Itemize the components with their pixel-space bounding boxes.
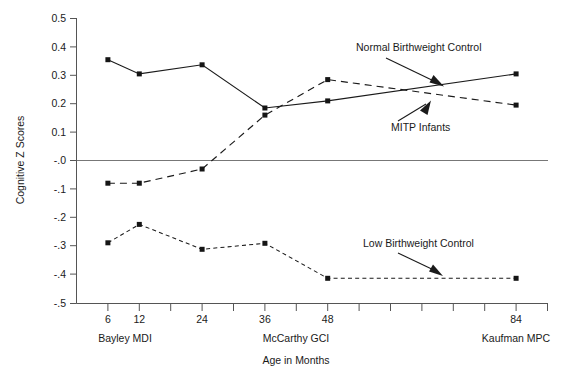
- data-point-marker: [262, 241, 267, 246]
- series-normal-birthweight-control: [105, 57, 518, 110]
- annotation-label-normal-birthweight-control: Normal Birthweight Control: [356, 41, 481, 53]
- data-point-marker: [200, 62, 205, 67]
- x-tick-label: 6: [105, 313, 111, 325]
- annotation-normal-birthweight-control: Normal Birthweight Control: [356, 41, 481, 87]
- series-line-normal-birthweight-control: [108, 60, 516, 108]
- y-tick-label: 0.5: [51, 12, 66, 24]
- annotation-label-low-birthweight-control: Low Birthweight Control: [363, 237, 474, 249]
- data-point-marker: [105, 57, 110, 62]
- group-label-mccarthy: McCarthy GCI: [263, 332, 330, 344]
- y-tick-label: 0.1: [51, 126, 66, 138]
- x-tick-label: 84: [510, 313, 522, 325]
- x-tick-label: 48: [322, 313, 334, 325]
- x-tick-label: 36: [259, 313, 271, 325]
- y-tick-label: 0.4: [51, 41, 66, 53]
- y-tick-label: -.2: [54, 211, 66, 223]
- data-point-marker: [105, 181, 110, 186]
- series-line-low-birthweight-control: [108, 224, 516, 278]
- cognitive-z-scores-line-chart: Cognitive Z Scores 0.5 0.4 0.3 0.2 0.1 -…: [0, 0, 579, 370]
- y-axis-title-text: Cognitive Z Scores: [14, 116, 26, 205]
- x-tick-label: 24: [196, 313, 208, 325]
- y-tick-label: -.0: [54, 154, 66, 166]
- y-tick-label: -.5: [54, 297, 66, 309]
- annotation-arrowhead: [429, 265, 443, 277]
- group-label-kaufman: Kaufman MPC: [482, 332, 551, 344]
- annotation-arrowhead: [420, 101, 431, 116]
- x-axis-tick-labels: 6 12 24 36 48 84: [105, 313, 522, 325]
- data-point-marker: [137, 222, 142, 227]
- x-tick-label: 12: [133, 313, 145, 325]
- data-point-marker: [200, 167, 205, 172]
- y-tick-label: 0.2: [51, 97, 66, 109]
- annotation-leader-line: [398, 104, 426, 121]
- series-mitp-infants: [105, 77, 518, 186]
- y-axis-title: Cognitive Z Scores: [14, 116, 26, 205]
- series-low-birthweight-control: [105, 222, 518, 281]
- data-point-marker: [325, 98, 330, 103]
- annotation-low-birthweight-control: Low Birthweight Control: [363, 237, 474, 276]
- x-axis-ticks: [108, 304, 548, 312]
- data-point-marker: [262, 106, 267, 111]
- y-tick-label: -.3: [54, 239, 66, 251]
- data-point-marker: [325, 276, 330, 281]
- annotation-leader-line: [386, 58, 438, 83]
- data-point-marker: [105, 240, 110, 245]
- data-point-marker: [137, 71, 142, 76]
- data-point-marker: [137, 181, 142, 186]
- data-point-marker: [325, 77, 330, 82]
- data-point-marker: [262, 113, 267, 118]
- data-point-marker: [200, 247, 205, 252]
- group-label-bayley: Bayley MDI: [98, 332, 152, 344]
- data-point-marker: [514, 71, 519, 76]
- assessment-group-labels: Bayley MDI McCarthy GCI Kaufman MPC: [98, 332, 550, 344]
- annotation-mitp-infants: MITP Infants: [391, 101, 450, 134]
- y-tick-label: -.1: [54, 183, 66, 195]
- y-tick-label: 0.3: [51, 69, 66, 81]
- y-axis-ticks: 0.5 0.4 0.3 0.2 0.1 -.0 -.1 -.2 -.3 -.4 …: [51, 12, 76, 309]
- data-point-marker: [514, 103, 519, 108]
- y-tick-label: -.4: [54, 268, 66, 280]
- data-point-marker: [514, 276, 519, 281]
- x-axis-title-text: Age in Months: [262, 354, 329, 366]
- annotation-label-mitp-infants: MITP Infants: [391, 121, 450, 133]
- series-line-mitp-infants: [108, 80, 516, 184]
